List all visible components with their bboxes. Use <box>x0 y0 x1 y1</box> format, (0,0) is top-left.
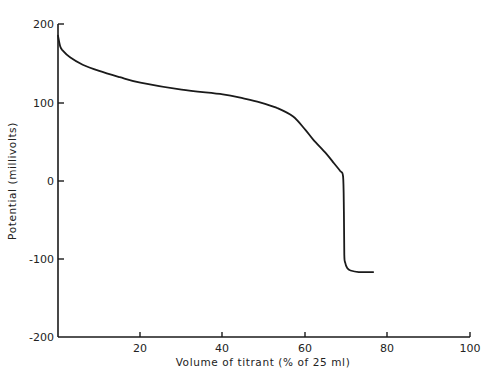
x-tick-label: 40 <box>215 342 229 355</box>
y-tick-label: 200 <box>33 18 54 31</box>
titration-chart: 200 100 0 -100 -200 20 40 60 80 100 Volu… <box>0 0 503 383</box>
y-tick-labels: 200 100 0 -100 -200 <box>29 18 54 344</box>
x-tick-label: 80 <box>380 342 394 355</box>
y-axis-title: Potential (millivolts) <box>6 122 18 240</box>
y-tick-label: 0 <box>47 175 54 188</box>
axes <box>58 24 470 337</box>
y-ticks <box>58 24 64 259</box>
x-tick-label: 100 <box>460 342 481 355</box>
x-tick-label: 20 <box>133 342 147 355</box>
x-tick-labels: 20 40 60 80 100 <box>133 342 481 355</box>
x-axis-title: Volume of titrant (% of 25 ml) <box>176 356 351 368</box>
y-tick-label: -100 <box>29 253 54 266</box>
x-tick-label: 60 <box>298 342 312 355</box>
y-tick-label: 100 <box>33 97 54 110</box>
titration-curve-line <box>58 36 373 272</box>
y-tick-label: -200 <box>29 331 54 344</box>
